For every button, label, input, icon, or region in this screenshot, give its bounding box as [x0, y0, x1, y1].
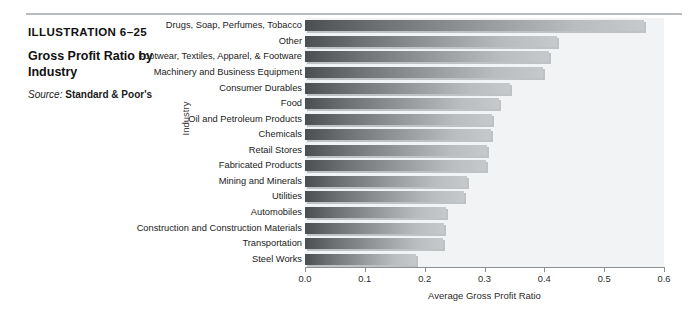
bar-chart: Industry Drugs, Soap, Perfumes, TobaccoO…	[168, 18, 680, 306]
x-axis-tick-label: 0.3	[465, 274, 505, 284]
category-label: Footwear, Textiles, Apparel, & Footware	[0, 52, 302, 61]
bar	[305, 254, 416, 265]
bar	[305, 145, 487, 156]
x-axis-tick-label: 0.5	[584, 274, 624, 284]
header-divider	[26, 13, 682, 15]
x-axis-tick-label: 0.0	[285, 274, 325, 284]
bar	[305, 223, 444, 234]
x-axis-tick-label: 0.6	[644, 274, 684, 284]
category-label: Machinery and Business Equipment	[0, 68, 302, 77]
x-axis-title: Average Gross Profit Ratio	[305, 290, 664, 301]
bar	[305, 238, 443, 249]
x-axis-tick	[425, 267, 426, 272]
bar-row	[305, 36, 664, 47]
bar-row	[305, 254, 664, 265]
category-label: Construction and Construction Materials	[0, 224, 302, 233]
bar	[305, 67, 543, 78]
category-label: Mining and Minerals	[0, 177, 302, 186]
x-axis-tick	[664, 267, 665, 272]
bar	[305, 83, 510, 94]
bar-row	[305, 223, 664, 234]
category-label: Chemicals	[0, 130, 302, 139]
bar	[305, 98, 499, 109]
category-label: Other	[0, 37, 302, 46]
category-label: Retail Stores	[0, 146, 302, 155]
x-axis-tick	[604, 267, 605, 272]
bar	[305, 129, 491, 140]
category-label: Utilities	[0, 192, 302, 201]
bar-row	[305, 114, 664, 125]
bar-row	[305, 176, 664, 187]
bar	[305, 160, 486, 171]
x-axis-tick-label: 0.4	[524, 274, 564, 284]
x-axis-tick	[544, 267, 545, 272]
x-axis-tick	[365, 267, 366, 272]
bar-row	[305, 67, 664, 78]
category-label: Consumer Durables	[0, 84, 302, 93]
x-axis-tick-label: 0.2	[405, 274, 445, 284]
category-label: Food	[0, 99, 302, 108]
bar	[305, 20, 644, 31]
bar	[305, 36, 557, 47]
bar-row	[305, 191, 664, 202]
bar-row	[305, 160, 664, 171]
category-label: Transportation	[0, 239, 302, 248]
category-label: Automobiles	[0, 208, 302, 217]
x-axis-tick-label: 0.1	[345, 274, 385, 284]
bar-row	[305, 238, 664, 249]
bar-row	[305, 20, 664, 31]
bar-row	[305, 51, 664, 62]
category-label: Drugs, Soap, Perfumes, Tobacco	[0, 21, 302, 30]
bar	[305, 207, 446, 218]
bar	[305, 176, 467, 187]
bar-row	[305, 129, 664, 140]
bar-row	[305, 145, 664, 156]
bar-row	[305, 207, 664, 218]
x-axis-tick	[485, 267, 486, 272]
x-axis-tick	[305, 267, 306, 272]
bar-row	[305, 98, 664, 109]
category-label: Fabricated Products	[0, 161, 302, 170]
category-label: Oil and Petroleum Products	[0, 115, 302, 124]
bar-row	[305, 83, 664, 94]
bar	[305, 114, 492, 125]
category-label: Steel Works	[0, 255, 302, 264]
bar	[305, 51, 549, 62]
bar	[305, 191, 464, 202]
